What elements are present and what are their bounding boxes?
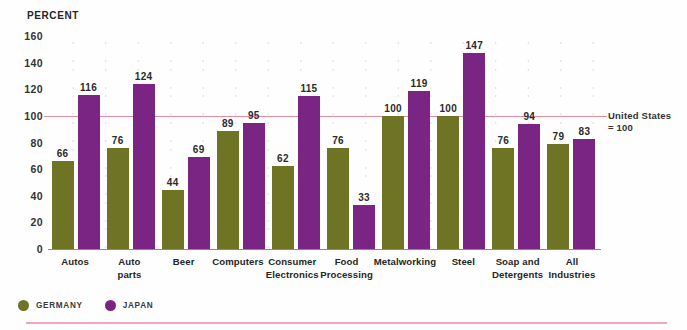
category-label-line: Consumer — [265, 256, 319, 269]
bar-groups: 6611676124446989956211576331001191001477… — [48, 36, 599, 249]
y-axis-tick-label: 20 — [31, 216, 43, 228]
bar-japan[interactable]: 147 — [463, 53, 485, 249]
y-axis-tick-label: 0 — [37, 243, 43, 255]
x-axis-category-labels: AutosAutopartsBeerComputersConsumerElect… — [48, 256, 599, 281]
category-label: Autos — [48, 256, 102, 281]
category-label-line: Electronics — [265, 269, 319, 282]
y-axis-tick-label: 40 — [31, 190, 43, 202]
bar-germany[interactable]: 66 — [52, 161, 74, 249]
y-axis-tick-label: 120 — [24, 83, 43, 95]
bar-value-label: 89 — [222, 118, 234, 129]
category-label-line: Detergents — [490, 269, 544, 282]
y-axis-tick-label: 60 — [31, 163, 43, 175]
bar-japan[interactable]: 33 — [353, 205, 375, 249]
category-label: Steel — [436, 256, 490, 281]
bar-slot: 100 — [437, 36, 459, 249]
reference-label-line2: = 100 — [608, 122, 671, 134]
bar-germany[interactable]: 62 — [272, 166, 294, 249]
bar-slot: 119 — [408, 36, 430, 249]
bar-slot: 79 — [547, 36, 569, 249]
bar-germany[interactable]: 100 — [382, 116, 404, 249]
bar-slot: 76 — [107, 36, 129, 249]
bar-value-label: 115 — [300, 83, 317, 94]
chart-page: PERCENT 020406080100120140160 6611676124… — [0, 0, 687, 330]
category-label: Autoparts — [102, 256, 156, 281]
legend-item-germany[interactable]: GERMANY — [18, 300, 83, 311]
bar-japan[interactable]: 115 — [298, 96, 320, 249]
bar-japan[interactable]: 116 — [78, 95, 100, 249]
bar-group: 7983 — [544, 36, 599, 249]
bar-slot: 76 — [492, 36, 514, 249]
bar-germany[interactable]: 44 — [162, 190, 184, 249]
bar-japan[interactable]: 95 — [243, 123, 265, 249]
bar-value-label: 100 — [439, 103, 457, 114]
bar-germany[interactable]: 76 — [107, 148, 129, 249]
bar-germany[interactable]: 79 — [547, 144, 569, 249]
bar-slot: 116 — [78, 36, 100, 249]
category-label-line: Computers — [211, 256, 265, 269]
bar-germany[interactable]: 89 — [217, 131, 239, 249]
x-axis-line — [48, 249, 601, 250]
category-label: FoodProcessing — [319, 256, 373, 281]
bar-group: 8995 — [213, 36, 268, 249]
bar-germany[interactable]: 100 — [437, 116, 459, 249]
bar-value-label: 76 — [332, 135, 344, 146]
bar-value-label: 69 — [193, 144, 205, 155]
category-label: Computers — [211, 256, 265, 281]
circle-marker-icon — [105, 300, 116, 311]
legend-label: GERMANY — [36, 301, 83, 310]
bar-slot: 76 — [327, 36, 349, 249]
bar-slot: 94 — [518, 36, 540, 249]
bar-value-label: 83 — [579, 126, 591, 137]
bar-group: 100147 — [434, 36, 489, 249]
bar-slot: 33 — [353, 36, 375, 249]
bar-slot: 69 — [188, 36, 210, 249]
category-label-line: All — [545, 256, 599, 269]
bar-value-label: 76 — [112, 135, 124, 146]
bar-japan[interactable]: 119 — [408, 91, 430, 249]
reference-label-line1: United States — [608, 110, 671, 122]
bar-slot: 100 — [382, 36, 404, 249]
category-label-line: Auto — [102, 256, 156, 269]
y-axis-tick-label: 80 — [31, 137, 43, 149]
category-label: ConsumerElectronics — [265, 256, 319, 281]
legend-label: JAPAN — [123, 301, 154, 310]
bar-slot: 124 — [133, 36, 155, 249]
bar-value-label: 95 — [248, 110, 260, 121]
bar-value-label: 119 — [411, 78, 428, 89]
bar-slot: 89 — [217, 36, 239, 249]
bar-group: 4469 — [158, 36, 213, 249]
legend-item-japan[interactable]: JAPAN — [105, 300, 154, 311]
category-label: Beer — [157, 256, 211, 281]
bar-slot: 83 — [573, 36, 595, 249]
category-label-line: Steel — [436, 256, 490, 269]
y-axis-tick-label: 160 — [24, 30, 43, 42]
category-label: Soap andDetergents — [490, 256, 544, 281]
bar-slot: 115 — [298, 36, 320, 249]
bar-germany[interactable]: 76 — [327, 148, 349, 249]
bar-value-label: 116 — [80, 82, 97, 93]
bar-group: 76124 — [103, 36, 158, 249]
bar-germany[interactable]: 76 — [492, 148, 514, 249]
bar-slot: 66 — [52, 36, 74, 249]
category-label-line: Autos — [48, 256, 102, 269]
bar-value-label: 79 — [553, 131, 565, 142]
bar-group: 7633 — [323, 36, 378, 249]
y-axis-tick-label: 140 — [24, 57, 43, 69]
circle-marker-icon — [18, 300, 29, 311]
bar-japan[interactable]: 69 — [188, 157, 210, 249]
bar-japan[interactable]: 83 — [573, 139, 595, 249]
bar-value-label: 147 — [465, 40, 483, 51]
bar-slot: 44 — [162, 36, 184, 249]
category-label: AllIndustries — [545, 256, 599, 281]
category-label-line: Soap and — [490, 256, 544, 269]
bar-japan[interactable]: 124 — [133, 84, 155, 249]
category-label-line: Processing — [319, 269, 373, 282]
bar-japan[interactable]: 94 — [518, 124, 540, 249]
plot-area: 6611676124446989956211576331001191001477… — [48, 36, 599, 249]
bar-value-label: 76 — [497, 135, 509, 146]
category-label-line: Food — [319, 256, 373, 269]
category-label-line: Beer — [157, 256, 211, 269]
bar-slot: 147 — [463, 36, 485, 249]
reference-line-label: United States = 100 — [608, 110, 671, 134]
